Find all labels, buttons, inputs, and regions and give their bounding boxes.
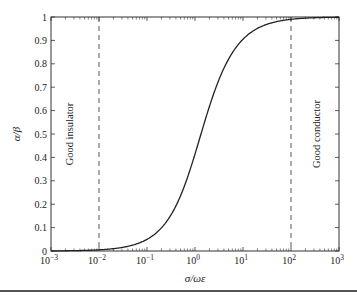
x-tick-label: 10−1 bbox=[136, 253, 154, 266]
y-tick-label: 0.2 bbox=[35, 199, 48, 210]
plot-frame bbox=[51, 17, 339, 251]
good-conductor-label: Good conductor bbox=[311, 100, 322, 168]
y-tick-label: 0.1 bbox=[35, 222, 48, 233]
x-tick-label: 10−3 bbox=[40, 253, 58, 266]
chart: 00.10.20.30.40.50.60.70.80.9110−310−210−… bbox=[0, 0, 357, 296]
good-insulator-label: Good insulator bbox=[64, 102, 75, 165]
x-tick-label: 100 bbox=[186, 253, 200, 266]
x-tick-label: 103 bbox=[330, 253, 344, 266]
y-tick-label: 0.7 bbox=[35, 82, 48, 93]
y-tick-label: 0.3 bbox=[35, 175, 48, 186]
plot-area: 00.10.20.30.40.50.60.70.80.9110−310−210−… bbox=[35, 12, 345, 267]
bottom-rule bbox=[0, 290, 357, 292]
y-axis-label: α/β bbox=[10, 126, 22, 141]
x-tick-label: 101 bbox=[234, 253, 248, 266]
y-tick-label: 0.9 bbox=[35, 35, 48, 46]
y-tick-label: 0.4 bbox=[35, 152, 48, 163]
y-tick-label: 0.6 bbox=[35, 105, 48, 116]
y-tick-label: 0.8 bbox=[35, 58, 48, 69]
y-tick-label: 0.5 bbox=[35, 129, 48, 140]
y-tick-label: 1 bbox=[42, 12, 47, 23]
x-tick-label: 10−2 bbox=[88, 253, 106, 266]
attenuation-curve bbox=[51, 17, 339, 251]
x-axis-label: σ/ωε bbox=[185, 272, 206, 284]
x-tick-label: 102 bbox=[282, 253, 296, 266]
